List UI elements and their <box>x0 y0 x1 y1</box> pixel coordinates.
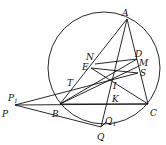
geometry-figure: ABCPP1QQ1DMSNEITK <box>0 0 166 145</box>
label-q: Q <box>97 132 105 142</box>
label-p1: P1 <box>7 93 18 104</box>
diagram-canvas: ABCPP1QQ1DMSNEITK <box>0 0 166 145</box>
label-i: I <box>112 81 117 91</box>
label-b: B <box>51 109 59 119</box>
label-k: K <box>111 94 120 104</box>
segment-p-c <box>15 104 148 105</box>
label-q1: Q1 <box>105 116 116 127</box>
point-labels: ABCPP1QQ1DMSNEITK <box>1 8 157 142</box>
label-t: T <box>67 78 74 88</box>
label-m: M <box>138 58 149 68</box>
segments <box>15 19 148 127</box>
label-p: P <box>1 109 9 119</box>
label-c: C <box>150 108 157 118</box>
label-a: A <box>121 8 129 18</box>
segment-p-s <box>15 73 138 105</box>
label-s: S <box>140 68 146 78</box>
label-e: E <box>81 62 89 72</box>
label-n: N <box>85 52 95 62</box>
